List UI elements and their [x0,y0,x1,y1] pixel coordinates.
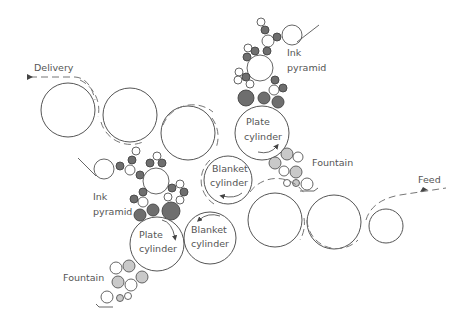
svg-text:Blanket: Blanket [212,163,248,174]
svg-text:cylinder: cylinder [139,243,177,254]
svg-text:Blanket: Blanket [191,224,227,235]
plate-cylinder-top: Plate cylinder [235,106,289,160]
plate-cylinder-bottom: Plate cylinder [130,217,184,271]
delivery-label: Delivery [34,62,74,73]
feed-label: Feed [418,174,441,185]
svg-text:pyramid: pyramid [93,206,132,217]
svg-text:Plate: Plate [139,229,163,240]
blanket-cylinder-bottom: Blanket cylinder [184,212,236,264]
fountain-bottom: Fountain [63,260,148,307]
ink-pyramid-top: Ink pyramid [234,18,326,108]
fountain-top: Fountain [269,148,353,191]
svg-text:Fountain: Fountain [312,157,353,168]
svg-text:cylinder: cylinder [244,131,282,142]
ink-pyramid-top-label-line1: Ink [287,47,302,58]
svg-text:Ink: Ink [93,191,108,202]
svg-text:cylinder: cylinder [210,177,248,188]
svg-text:Fountain: Fountain [63,272,104,283]
ink-pyramid-top-label-line2: pyramid [287,62,326,73]
feed-cylinders: Feed [248,174,446,249]
delivery-cylinder [41,83,95,137]
transfer-cylinders [41,80,218,160]
transfer-cylinder-2 [161,106,215,160]
transfer-cylinder-3 [307,195,361,249]
ductor-roller-bottom [94,159,114,179]
impression-cylinder [248,193,302,247]
svg-text:Plate: Plate [246,116,270,127]
blanket-cylinder-top: Blanket cylinder [201,156,252,204]
feed-cylinder [369,209,403,243]
offset-press-diagram: Delivery Ink pyramid [0,0,472,318]
ductor-roller-top [282,25,302,45]
svg-text:cylinder: cylinder [191,238,229,249]
transfer-cylinder-1 [103,88,157,142]
ink-pyramid-bottom: Ink pyramid [78,147,188,221]
